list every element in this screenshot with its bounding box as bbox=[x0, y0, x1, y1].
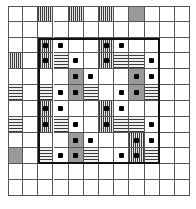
cell-marker-dot bbox=[43, 106, 48, 111]
grid-cell bbox=[129, 53, 144, 69]
grid-cell bbox=[145, 53, 160, 69]
grid-cell bbox=[175, 164, 190, 180]
grid-cell bbox=[69, 164, 84, 180]
grid-cell bbox=[175, 101, 190, 117]
grid-cell bbox=[84, 53, 99, 69]
cell-marker-dot bbox=[73, 90, 78, 95]
grid-cell bbox=[114, 38, 129, 54]
grid-cell bbox=[145, 85, 160, 101]
cell-marker-dot bbox=[43, 58, 48, 63]
grid-cell bbox=[54, 85, 69, 101]
grid-cell bbox=[145, 133, 160, 149]
grid-cell bbox=[160, 133, 175, 149]
grid-cell bbox=[114, 22, 129, 38]
grid-cell bbox=[114, 53, 129, 69]
grid-cell bbox=[8, 180, 23, 196]
grid-cell bbox=[175, 22, 190, 38]
grid-cell bbox=[38, 101, 53, 117]
grid-cell bbox=[8, 69, 23, 85]
grid-cell bbox=[129, 180, 144, 196]
grid-cell bbox=[8, 148, 23, 164]
cell-marker-dot bbox=[58, 43, 63, 48]
grid-cell bbox=[8, 133, 23, 149]
grid-cell bbox=[69, 6, 84, 22]
grid-cell bbox=[145, 180, 160, 196]
cell-marker-dot bbox=[119, 153, 124, 158]
grid-cell bbox=[69, 38, 84, 54]
grid-cell bbox=[38, 164, 53, 180]
grid-cell bbox=[23, 38, 38, 54]
grid-cell bbox=[54, 180, 69, 196]
grid-cell bbox=[54, 22, 69, 38]
grid-cell bbox=[114, 117, 129, 133]
grid-cell bbox=[160, 53, 175, 69]
grid-cell bbox=[160, 85, 175, 101]
grid-cell bbox=[84, 38, 99, 54]
cell-marker-dot bbox=[58, 153, 63, 158]
grid-cell bbox=[38, 117, 53, 133]
grid-cell bbox=[23, 180, 38, 196]
grid-cell bbox=[114, 180, 129, 196]
grid-cell bbox=[114, 133, 129, 149]
grid-cell bbox=[99, 164, 114, 180]
cell-marker-dot bbox=[149, 138, 154, 143]
grid-cell bbox=[129, 38, 144, 54]
grid-cell bbox=[175, 6, 190, 22]
grid-cell bbox=[145, 22, 160, 38]
cell-marker-dot bbox=[58, 106, 63, 111]
cell-marker-dot bbox=[88, 74, 93, 79]
grid-cell bbox=[114, 6, 129, 22]
grid-cell bbox=[160, 101, 175, 117]
grid-cell bbox=[23, 148, 38, 164]
grid-cell bbox=[69, 53, 84, 69]
grid-cell bbox=[54, 101, 69, 117]
grid-cell bbox=[129, 69, 144, 85]
grid-cell bbox=[38, 53, 53, 69]
grid-cell bbox=[38, 22, 53, 38]
grid-cell bbox=[99, 38, 114, 54]
grid-cell bbox=[23, 69, 38, 85]
grid-cell bbox=[114, 164, 129, 180]
grid-cell bbox=[23, 164, 38, 180]
grid-cell bbox=[99, 85, 114, 101]
grid-cell bbox=[84, 148, 99, 164]
cell-marker-dot bbox=[73, 138, 78, 143]
grid-cell bbox=[38, 148, 53, 164]
grid-cell bbox=[99, 133, 114, 149]
grid-cell bbox=[99, 101, 114, 117]
grid-cell bbox=[114, 101, 129, 117]
grid-cell bbox=[129, 101, 144, 117]
grid-cell bbox=[54, 148, 69, 164]
grid-cell bbox=[8, 164, 23, 180]
cell-marker-dot bbox=[119, 106, 124, 111]
grid-cell bbox=[23, 6, 38, 22]
grid-cell bbox=[84, 85, 99, 101]
grid-cell bbox=[129, 148, 144, 164]
cell-marker-dot bbox=[134, 138, 139, 143]
grid-cell bbox=[69, 117, 84, 133]
grid-cell bbox=[145, 101, 160, 117]
grid-cell bbox=[84, 133, 99, 149]
grid-cell bbox=[160, 38, 175, 54]
grid-cell bbox=[129, 22, 144, 38]
grid-cell bbox=[175, 180, 190, 196]
grid-cell bbox=[99, 22, 114, 38]
grid-cell bbox=[129, 117, 144, 133]
grid-cell bbox=[38, 133, 53, 149]
grid-cell bbox=[114, 85, 129, 101]
cell-marker-dot bbox=[149, 74, 154, 79]
grid-cell bbox=[69, 101, 84, 117]
grid-cell bbox=[129, 85, 144, 101]
grid-cell bbox=[160, 117, 175, 133]
grid-cell bbox=[8, 22, 23, 38]
grid-cell bbox=[38, 6, 53, 22]
grid-cell bbox=[23, 85, 38, 101]
grid-cell bbox=[54, 69, 69, 85]
cell-marker-dot bbox=[119, 43, 124, 48]
cell-marker-dot bbox=[104, 43, 109, 48]
grid-cell bbox=[69, 148, 84, 164]
grid-cell bbox=[54, 133, 69, 149]
cell-marker-dot bbox=[73, 58, 78, 63]
grid-cell bbox=[23, 133, 38, 149]
grid-cell bbox=[84, 69, 99, 85]
